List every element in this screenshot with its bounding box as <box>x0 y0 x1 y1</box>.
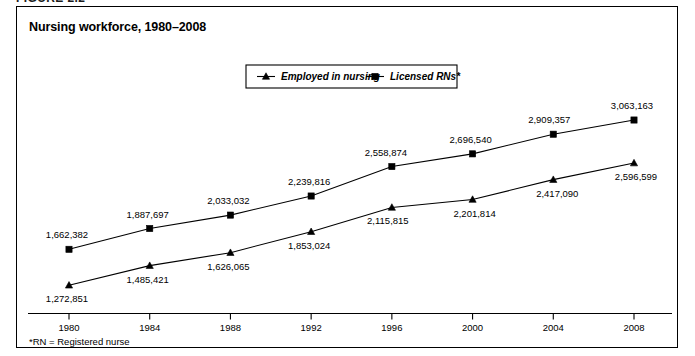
chart-series-group <box>65 117 637 288</box>
chart-point-labels: 1,662,3821,887,6972,033,0322,239,8162,55… <box>46 100 657 304</box>
series-employed-in-nursing <box>65 159 637 288</box>
square-marker <box>66 246 72 252</box>
x-tick-label-2004: 2004 <box>543 322 564 333</box>
chart-legend: Employed in nursingLicensed RNs* <box>246 65 461 88</box>
data-label: 1,272,851 <box>46 293 88 304</box>
data-label: 2,115,815 <box>367 215 409 226</box>
x-tick-label-2008: 2008 <box>623 322 644 333</box>
x-tick-label-1980: 1980 <box>58 322 79 333</box>
data-label: 2,596,599 <box>615 171 657 182</box>
data-label: 2,201,814 <box>453 208 495 219</box>
data-label: 2,909,357 <box>528 114 570 125</box>
square-marker <box>469 151 475 157</box>
legend-label-employed-in-nursing: Employed in nursing <box>281 71 380 82</box>
data-label: 2,696,540 <box>449 134 491 145</box>
x-tick-label-2000: 2000 <box>462 322 483 333</box>
data-label: 2,033,032 <box>207 195 249 206</box>
triangle-marker <box>630 159 637 166</box>
square-marker <box>227 212 233 218</box>
x-tick-label-1984: 1984 <box>139 322 160 333</box>
x-axis-ticks: 19801984198819921996200020042008 <box>58 314 644 334</box>
chart-axes: 19801984198819921996200020042008 <box>28 314 672 334</box>
square-marker <box>372 73 378 79</box>
x-tick-label-1996: 1996 <box>381 322 402 333</box>
x-tick-label-1992: 1992 <box>301 322 322 333</box>
line-chart: 19801984198819921996200020042008 1,662,3… <box>0 0 695 356</box>
data-label: 3,063,163 <box>611 100 653 111</box>
square-marker <box>550 131 556 137</box>
data-label: 2,558,874 <box>365 147 407 158</box>
series-line <box>69 120 634 249</box>
square-marker <box>147 225 153 231</box>
data-label: 1,887,697 <box>127 209 169 220</box>
legend-label-licensed-rns: Licensed RNs* <box>390 71 461 82</box>
figure-root: FIGURE 2.2 Nursing workforce, 1980–2008 … <box>0 0 695 356</box>
x-tick-label-1988: 1988 <box>220 322 241 333</box>
data-label: 1,853,024 <box>288 240 330 251</box>
data-label: 1,662,382 <box>46 229 88 240</box>
data-label: 1,626,065 <box>207 261 249 272</box>
data-label: 2,239,816 <box>288 176 330 187</box>
data-label: 1,485,421 <box>127 274 169 285</box>
square-marker <box>389 163 395 169</box>
series-licensed-rns <box>66 117 637 253</box>
square-marker <box>631 117 637 123</box>
data-label: 2,417,090 <box>536 188 578 199</box>
square-marker <box>308 193 314 199</box>
